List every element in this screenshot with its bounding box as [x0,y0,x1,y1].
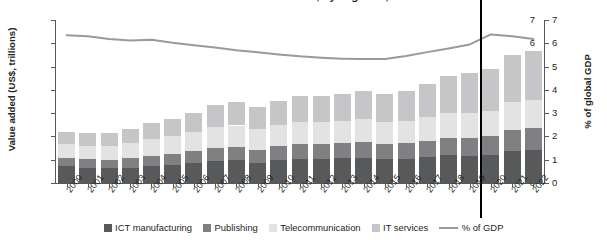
line-series-holder [56,20,544,183]
y-axis-right-title-wrap: % of global GDP [580,20,594,183]
chart-legend: ICT manufacturingPublishingTelecommunica… [0,222,607,233]
y-tick-left [51,43,55,44]
legend-label: Telecommunication [280,222,360,233]
y-tick-label-right: 4 [552,85,557,95]
chart-container: Value added of the ICT sector, by segmen… [0,0,607,240]
y-tick-left [51,136,55,137]
y-axis-right-title: % of global GDP [582,37,593,147]
legend-item-4[interactable]: % of GDP [439,222,503,233]
y-tick-label-right: 1 [552,155,557,165]
y-tick-label-right: 3 [552,108,557,118]
chart-title: Value added of the ICT sector, by segmen… [159,0,448,2]
y-tick-label-right: 0 [552,178,557,188]
legend-item-1[interactable]: Publishing [203,222,258,233]
y-tick-left [51,67,55,68]
y-tick-left [51,160,55,161]
legend-label: % of GDP [462,222,504,233]
y-tick-label-right: 2 [552,131,557,141]
legend-item-3[interactable]: IT services [372,222,429,233]
chart-title-strip: Value added of the ICT sector, by segmen… [0,0,607,9]
y-tick-left [51,20,55,21]
legend-swatch-icon [104,224,112,232]
plot-area: 01234567 01234567 [56,20,544,183]
legend-label: IT services [383,222,428,233]
y-tick-label-right: 6 [552,38,557,48]
line-path [67,34,534,59]
legend-swatch-icon [269,224,277,232]
y-tick-right [545,136,549,137]
y-tick-right [545,113,549,114]
legend-line-icon [439,227,458,229]
y-tick-right [545,43,549,44]
legend-item-2[interactable]: Telecommunication [269,222,361,233]
legend-label: Publishing [215,222,258,233]
y-tick-label-right: 7 [552,15,557,25]
y-axis-left-title-wrap: Value added (US$, trillions) [2,20,16,183]
y-axis-left-title: Value added (US$, trillions) [6,15,17,165]
y-tick-left [51,183,55,184]
legend-item-0[interactable]: ICT manufacturing [104,222,192,233]
y-tick-left [51,113,55,114]
legend-label: ICT manufacturing [115,222,192,233]
legend-swatch-icon [203,224,211,232]
y-tick-label-right: 5 [552,62,557,72]
y-tick-right [545,90,549,91]
y-tick-right [545,67,549,68]
y-tick-left [51,90,55,91]
y-tick-right [545,20,549,21]
percent-of-gdp-line [56,20,544,183]
y-tick-right [545,160,549,161]
legend-swatch-icon [372,224,380,232]
